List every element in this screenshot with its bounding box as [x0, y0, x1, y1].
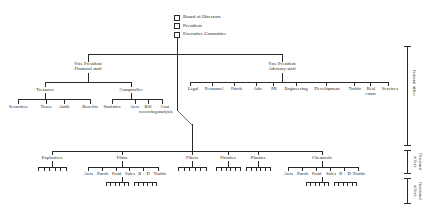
- box-board-of-directors: [174, 15, 180, 21]
- label-executive-committee: Executive Committee: [183, 31, 226, 37]
- label-finishes: Finishes: [220, 155, 236, 160]
- label-general-office: General office: [412, 70, 417, 96]
- stem-financial-down: [88, 73, 89, 82]
- label-benefits: Benefits: [82, 104, 98, 109]
- label-films-traffic: Traffic: [154, 171, 167, 176]
- label-chem-rd: R + D: [339, 171, 351, 176]
- label-legal: Legal: [188, 86, 199, 91]
- spine-vp: [88, 54, 282, 55]
- label-engineering: Engineering: [284, 86, 307, 91]
- spine-advisory: [190, 82, 388, 83]
- cost-analysis-line2: analysis: [157, 109, 172, 114]
- vp-financial-line2: Financial staff: [74, 66, 101, 71]
- label-films: Films: [117, 155, 128, 160]
- label-divisional-offices: Divisional offices: [412, 148, 422, 176]
- label-functional-offices: Functional offices: [412, 176, 422, 206]
- label-plastics: Plastics: [251, 155, 265, 160]
- label-chem-acct: Acct.: [284, 171, 294, 176]
- label-pr: PR: [271, 86, 277, 91]
- connector-center-to-divisions: [177, 54, 178, 111]
- label-chem-sales: Sales: [326, 171, 336, 176]
- label-development: Development: [314, 86, 339, 91]
- spine-financial: [45, 82, 131, 83]
- stem-advisory-down: [282, 73, 283, 82]
- label-chem-traffic: Traffic: [353, 171, 366, 176]
- label-films-acct: Acct.: [84, 171, 94, 176]
- spine-divisions: [52, 151, 322, 152]
- label-vp-financial: Vice President Financial staff: [68, 61, 108, 71]
- label-adv: Adv.: [254, 86, 263, 91]
- label-explosives: Explosives: [42, 155, 63, 160]
- label-comptroller: Comptroller: [119, 87, 142, 92]
- label-films-rd: R + D: [138, 171, 150, 176]
- label-personnel: Personnel: [205, 86, 224, 91]
- label-chem-purch: Purch.: [297, 171, 309, 176]
- spine-comptroller-children: [112, 99, 162, 100]
- connector-center-lower: [192, 124, 193, 151]
- spine-chemicals-functions: [288, 167, 358, 168]
- label-films-purch: Purch.: [97, 171, 109, 176]
- connector-exec-down: [177, 38, 178, 54]
- box-president: [174, 23, 180, 29]
- real-estate-line2: estate: [366, 91, 377, 96]
- label-purch-advisory: Purch.: [231, 86, 243, 91]
- label-audit: Audit: [59, 104, 70, 109]
- label-treasurer: Treasurer: [36, 87, 54, 92]
- vp-advisory-line2: Advisory staff: [268, 66, 295, 71]
- spine-films-functions: [88, 167, 158, 168]
- label-vp-advisory: Vice President Advisory staff: [262, 61, 302, 71]
- label-chemicals: Chemicals: [312, 155, 332, 160]
- spine-treasurer-children: [18, 99, 90, 100]
- org-chart: Board of Directors President Executive C…: [0, 0, 430, 213]
- label-taxes: Taxes: [41, 104, 52, 109]
- label-services: Services: [382, 86, 398, 91]
- label-board-of-directors: Board of Directors: [183, 14, 221, 20]
- label-films-prod: Prod.: [112, 171, 122, 176]
- label-cost-analysis: Cost analysis: [145, 104, 185, 114]
- label-fibers: Fibers: [186, 155, 198, 160]
- label-statistics: Statistics: [103, 104, 120, 109]
- label-chem-prod: Prod.: [312, 171, 322, 176]
- label-securities: Securities: [9, 104, 28, 109]
- label-president: President: [183, 23, 202, 29]
- label-films-sales: Sales: [125, 171, 135, 176]
